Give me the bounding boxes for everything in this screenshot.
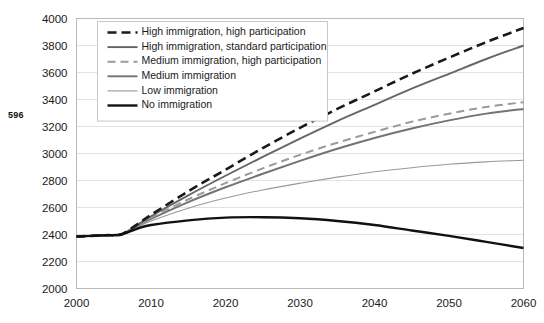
y-axis-tick-label: 3400 [42, 94, 68, 106]
chart-legend: High immigration, high participationHigh… [98, 22, 328, 122]
legend-label: Medium immigration [142, 69, 237, 81]
legend-label: Low immigration [142, 84, 219, 96]
x-axis-tick-label: 2040 [362, 297, 388, 309]
y-axis-tick-label: 3800 [42, 40, 68, 52]
x-axis-tick-label: 2030 [287, 297, 313, 309]
legend-label: High immigration, standard participation [142, 40, 327, 52]
y-axis-tick-label: 2000 [42, 283, 68, 295]
x-axis-tick-label: 2060 [511, 297, 537, 309]
series-line [77, 160, 524, 236]
x-axis-tick-label: 2010 [138, 297, 164, 309]
x-axis-tick-label: 2000 [64, 297, 90, 309]
y-axis-tick-label: 2400 [42, 229, 68, 241]
y-axis-tick-label: 2800 [42, 175, 68, 187]
y-axis-tick-labels: 2000220024002600280030003200340036003800… [42, 13, 68, 295]
y-axis-tick-label: 2600 [42, 202, 68, 214]
chart-container: 2000220024002600280030003200340036003800… [0, 0, 544, 323]
legend-label: No immigration [142, 98, 213, 110]
x-axis-tick-labels: 2000201020202030204020502060 [64, 297, 537, 309]
y-axis-tick-label: 3600 [42, 67, 68, 79]
x-axis-tick-label: 2050 [436, 297, 462, 309]
line-chart: 2000220024002600280030003200340036003800… [0, 0, 544, 323]
y-axis-tick-label: 4000 [42, 13, 68, 25]
series-line [77, 102, 524, 236]
legend-label: High immigration, high participation [142, 25, 306, 37]
y-axis-tick-label: 2200 [42, 256, 68, 268]
x-axis-tick-label: 2020 [213, 297, 239, 309]
y-axis-tick-label: 3000 [42, 148, 68, 160]
legend-label: Medium immigration, high participation [142, 54, 322, 66]
y-axis-tick-label: 3200 [42, 121, 68, 133]
